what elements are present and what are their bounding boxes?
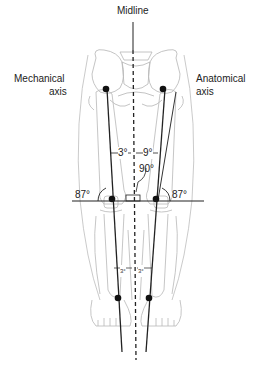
right-knee-87-label: 87° bbox=[172, 189, 187, 201]
right-87-arc bbox=[162, 188, 170, 201]
lower-legs bbox=[95, 214, 178, 300]
left-knee-87-label: 87° bbox=[75, 189, 90, 201]
angle-3-label: 3° bbox=[118, 147, 128, 159]
mechanical-axis-label-line2: axis bbox=[49, 86, 67, 98]
anatomy-drawing bbox=[0, 0, 259, 366]
knee-center-box bbox=[126, 195, 140, 201]
anatomical-axis-label-line2: axis bbox=[196, 86, 214, 98]
lower-right-angle-label: 3° bbox=[138, 265, 144, 277]
pelvis bbox=[92, 50, 180, 107]
left-axis-line bbox=[107, 89, 122, 352]
angle-90-label: 90° bbox=[139, 163, 154, 175]
midline-dashed bbox=[133, 50, 136, 360]
midline-label: Midline bbox=[117, 5, 149, 17]
femurs bbox=[89, 89, 184, 204]
left-87-arc bbox=[98, 188, 106, 201]
anatomical-axis-label-line1: Anatomical bbox=[196, 73, 245, 85]
right-ankle-center bbox=[146, 295, 153, 302]
mechanical-axis-label-line1: Mechanical bbox=[14, 73, 65, 85]
left-ankle-center bbox=[115, 295, 122, 302]
knee-alignment-diagram: Midline Mechanical axis Anatomical axis … bbox=[0, 0, 259, 366]
angle-9-label: 9° bbox=[143, 147, 153, 159]
lower-left-angle-label: 3° bbox=[120, 265, 126, 277]
right-hip-center bbox=[160, 86, 167, 93]
left-hip-center bbox=[103, 86, 110, 93]
